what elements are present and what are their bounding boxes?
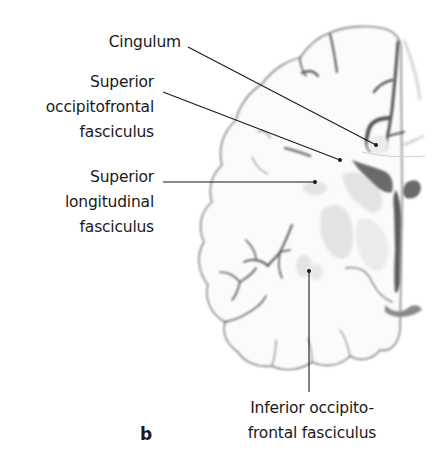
label-line: frontal fasciculus — [232, 421, 392, 446]
label-line: fasciculus — [46, 120, 154, 145]
pointer-dot-cingulum — [375, 144, 378, 147]
midline-structures — [403, 40, 424, 145]
label-cingulum: Cingulum — [109, 30, 181, 55]
label-line: longitudinal — [65, 190, 154, 215]
pointer-dot-superior-occipitofrontal — [339, 159, 342, 162]
pointer-dot-inferior-occipitofrontal — [308, 270, 311, 273]
label-line: Inferior occipito- — [232, 396, 392, 421]
label-line: fasciculus — [65, 215, 154, 240]
brain-coronal-section-figure: Cingulum Superior occipitofrontal fascic… — [0, 0, 447, 456]
label-superior-occipitofrontal-fasciculus: Superior occipitofrontal fasciculus — [46, 70, 154, 145]
label-line: occipitofrontal — [46, 95, 154, 120]
label-line: Superior — [46, 70, 154, 95]
panel-letter: b — [140, 424, 152, 444]
label-inferior-occipitofrontal-fasciculus: Inferior occipito- frontal fasciculus — [232, 396, 392, 446]
label-line: Cingulum — [109, 30, 181, 55]
pointer-dot-superior-longitudinal — [314, 181, 317, 184]
label-superior-longitudinal-fasciculus: Superior longitudinal fasciculus — [65, 165, 154, 240]
label-line: Superior — [65, 165, 154, 190]
